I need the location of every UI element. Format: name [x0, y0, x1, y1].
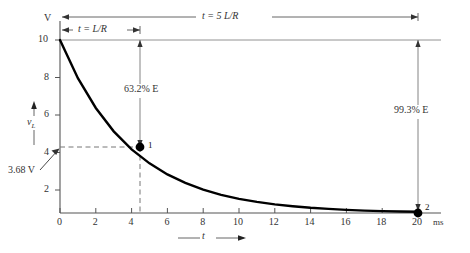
annotation-tau-label: t = L/R [78, 24, 107, 34]
y-axis-unit-label: V [44, 13, 51, 23]
x-tick-label-2: 2 [93, 217, 98, 227]
decay-curve [60, 40, 418, 212]
annotation-993-arrow [392, 40, 454, 211]
y-tick-label-6: 6 [44, 109, 49, 119]
x-tick-label-10: 10 [233, 217, 243, 227]
annotation-368-arrow [40, 148, 60, 170]
annotation-5tau-label: t = 5 L/R [202, 11, 238, 21]
x-tick-label-16: 16 [340, 217, 350, 227]
x-tick-label-20: 20 [412, 217, 422, 227]
y-tick-label-2: 2 [44, 184, 49, 194]
x-tick-label-6: 6 [164, 217, 169, 227]
x-tick-label-18: 18 [376, 217, 386, 227]
rl-circuit-decay-figure: V vL 10 8 6 4 2 0 2 4 6 8 10 12 14 16 18… [0, 0, 470, 253]
annotation-993-label: 99.3% E [394, 105, 428, 115]
x-axis-unit-label: ms [433, 218, 444, 227]
x-tick-label-0: 0 [57, 217, 62, 227]
y-axis-title-sub: L [31, 122, 35, 130]
x-axis-title: t [202, 231, 205, 241]
x-tick-label-14: 14 [305, 217, 315, 227]
annotation-368-label: 3.68 V [8, 165, 35, 175]
data-point-2-label: 2 [425, 203, 430, 212]
annotation-632-label: 63.2% E [124, 84, 158, 94]
data-point-1 [136, 143, 145, 152]
data-point-1-label: 1 [148, 141, 153, 150]
y-tick-label-8: 8 [44, 72, 49, 82]
x-tick-label-12: 12 [269, 217, 279, 227]
annotation-5tau-arrow [62, 11, 418, 24]
y-axis-title: vL [27, 117, 35, 130]
guide-lines-point-1 [60, 147, 140, 213]
x-axis-label-arrow [178, 231, 246, 245]
y-tick-label-4: 4 [44, 147, 49, 157]
x-tick-label-4: 4 [129, 217, 134, 227]
x-tick-label-8: 8 [200, 217, 205, 227]
y-tick-label-10: 10 [38, 34, 48, 44]
y-axis-ticks [55, 40, 60, 190]
